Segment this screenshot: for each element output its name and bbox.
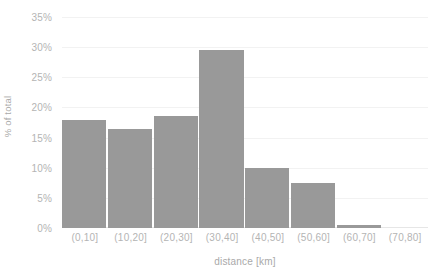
- x-tick-label: (20,30]: [154, 232, 200, 243]
- bar[interactable]: [337, 225, 381, 228]
- bar[interactable]: [245, 168, 289, 228]
- x-tick-label: (40,50]: [245, 232, 291, 243]
- x-tick-label: (70,80]: [382, 232, 428, 243]
- y-axis-title-label: % of total: [3, 95, 14, 137]
- x-tick-label: (30,40]: [199, 232, 245, 243]
- y-tick-label: 5%: [37, 192, 52, 203]
- bars-layer: [62, 17, 428, 228]
- x-tick-label: (10,20]: [108, 232, 154, 243]
- y-tick-label: 15%: [31, 132, 52, 143]
- bar[interactable]: [108, 129, 152, 228]
- bar-chart: % of total 0%5%10%15%20%25%30%35% (0,10]…: [0, 0, 437, 279]
- x-tick-label: (60,70]: [337, 232, 383, 243]
- x-axis-tick-labels: (0,10](10,20](20,30](30,40](40,50](50,60…: [62, 232, 428, 248]
- bar[interactable]: [154, 116, 198, 228]
- y-tick-label: 25%: [31, 72, 52, 83]
- x-tick-label: (0,10]: [62, 232, 108, 243]
- x-axis-title: distance [km]: [62, 256, 428, 267]
- y-tick-label: 10%: [31, 162, 52, 173]
- plot-area: [62, 17, 428, 228]
- y-axis-title: % of total: [0, 0, 16, 232]
- y-tick-label: 35%: [31, 12, 52, 23]
- bar[interactable]: [199, 50, 243, 228]
- x-tick-label: (50,60]: [291, 232, 337, 243]
- y-tick-label: 0%: [37, 223, 52, 234]
- y-axis-tick-labels: 0%5%10%15%20%25%30%35%: [16, 0, 58, 279]
- y-tick-label: 30%: [31, 42, 52, 53]
- bar[interactable]: [291, 183, 335, 228]
- y-tick-label: 20%: [31, 102, 52, 113]
- bar[interactable]: [62, 120, 106, 229]
